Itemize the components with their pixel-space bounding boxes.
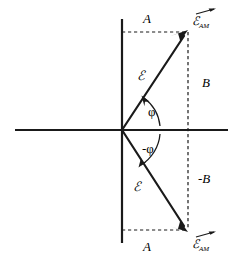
vector-overbar-arrow-lower [196, 231, 216, 237]
label-vector-epsilon-am-upper: ℰAM [192, 15, 209, 30]
label-component-A-bottom: A [143, 240, 151, 253]
label-amplitude-epsilon-upper: ℰ [137, 69, 145, 82]
label-angle-phi-negative: -φ [142, 142, 154, 155]
vector-epsilon-symbol-upper: ℰ [192, 14, 199, 28]
vector-overbar-arrow-upper [196, 8, 216, 14]
label-amplitude-epsilon-lower: ℰ [133, 180, 141, 193]
label-component-B-positive: B [202, 76, 210, 89]
phasor-arrowhead-lower [171, 221, 188, 232]
label-vector-epsilon-am-lower: ℰAM [192, 238, 209, 253]
vector-diagram-canvas [0, 0, 239, 262]
vector-diagram-figure: A A B -B ℰ ℰ φ -φ ℰAM ℰAM [0, 0, 239, 262]
label-component-A-top: A [143, 12, 151, 25]
label-angle-phi-positive: φ [148, 105, 156, 118]
phasor-arrowhead-upper [171, 30, 188, 41]
vector-epsilon-subscript-upper: AM [199, 22, 209, 30]
vector-epsilon-symbol-lower: ℰ [192, 237, 199, 251]
label-component-B-negative: -B [198, 172, 210, 185]
vector-epsilon-subscript-lower: AM [199, 245, 209, 253]
